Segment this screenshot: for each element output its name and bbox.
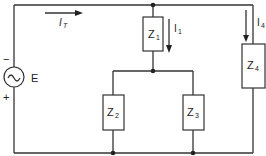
svg-text:Z: Z xyxy=(107,106,114,118)
svg-text:2: 2 xyxy=(115,112,119,119)
svg-text:I: I xyxy=(257,17,260,28)
svg-text:I: I xyxy=(174,23,177,34)
svg-text:4: 4 xyxy=(261,22,265,29)
svg-text:4: 4 xyxy=(255,65,259,72)
arrow-down-icon xyxy=(166,45,172,53)
svg-text:3: 3 xyxy=(195,112,199,119)
svg-text:1: 1 xyxy=(156,34,160,41)
ac-source: E − + xyxy=(3,53,38,103)
wires xyxy=(14,5,253,153)
svg-text:Z: Z xyxy=(187,106,194,118)
current-branch1: I 1 xyxy=(166,19,182,53)
arrow-down-icon xyxy=(243,35,249,42)
impedance-z3: Z 3 xyxy=(183,95,204,130)
impedance-z2: Z 2 xyxy=(103,95,124,130)
impedance-z4: Z 4 xyxy=(242,44,265,88)
svg-text:1: 1 xyxy=(178,28,182,35)
arrow-right-icon xyxy=(75,10,83,16)
circuit-diagram: E − + I T I 1 I 4 Z 1 Z 2 Z 3 xyxy=(0,0,266,156)
svg-text:T: T xyxy=(63,22,68,29)
svg-text:Z: Z xyxy=(148,28,155,40)
source-label: E xyxy=(31,72,38,84)
impedance-z1: Z 1 xyxy=(143,17,163,51)
svg-text:Z: Z xyxy=(247,59,254,71)
source-plus: + xyxy=(3,91,9,103)
current-branch4: I 4 xyxy=(243,10,265,42)
svg-text:I: I xyxy=(59,17,62,28)
source-minus: − xyxy=(3,53,9,65)
current-total: I T xyxy=(45,10,83,29)
